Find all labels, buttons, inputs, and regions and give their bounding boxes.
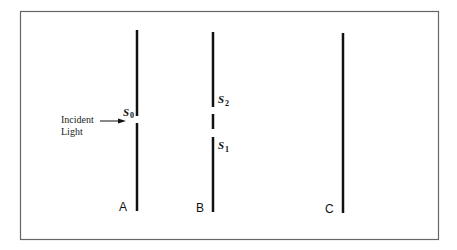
slit-label-s0: S 0 bbox=[123, 106, 134, 120]
screen-label-a: A bbox=[119, 200, 127, 214]
slit-label-s2: S 2 bbox=[218, 93, 229, 108]
double-slit-diagram: Incident Light S 0 S 2 S 1 A B C bbox=[0, 0, 457, 250]
screen-label-b: B bbox=[196, 201, 204, 215]
svg-text:S: S bbox=[218, 93, 224, 105]
diagram-frame bbox=[21, 12, 439, 240]
screen-label-c: C bbox=[325, 202, 334, 216]
light-label: Light bbox=[61, 126, 83, 137]
incident-arrow-icon bbox=[100, 119, 126, 124]
svg-text:0: 0 bbox=[130, 111, 134, 120]
slit-label-s1: S 1 bbox=[218, 139, 229, 154]
svg-text:2: 2 bbox=[225, 99, 229, 108]
svg-text:S: S bbox=[218, 139, 224, 151]
svg-text:S: S bbox=[123, 106, 129, 118]
svg-text:1: 1 bbox=[225, 145, 229, 154]
incident-label: Incident bbox=[61, 114, 94, 125]
